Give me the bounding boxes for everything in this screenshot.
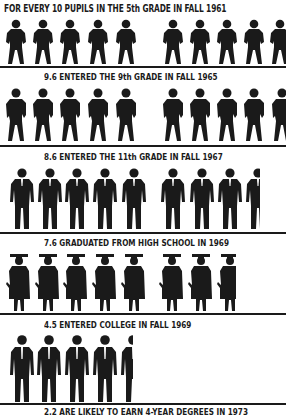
graduate-icon: [187, 252, 215, 312]
child-icon: [188, 19, 212, 65]
college-man-icon: [92, 335, 118, 403]
child-icon: [58, 19, 82, 65]
child-icon: [31, 19, 55, 65]
young-man-icon-partial: [245, 168, 260, 230]
graduate-icon: [62, 252, 90, 312]
graduate-icon: [158, 252, 186, 312]
caption-row-3: 7.6 GRADUATED FROM HIGH SCHOOL IN 1969: [44, 237, 229, 248]
divider: [0, 66, 286, 68]
teen-icon: [114, 88, 138, 142]
pictogram-row-5th-grade: [0, 19, 286, 65]
college-man-icon-partial: [120, 335, 133, 403]
college-man-icon: [64, 335, 90, 403]
young-man-icon: [217, 168, 243, 230]
young-man-icon: [64, 168, 90, 230]
divider: [0, 232, 286, 234]
teen-icon: [161, 88, 185, 142]
graduate-icon: [91, 252, 119, 312]
teen-icon: [242, 88, 266, 142]
pictogram-row-college: [0, 335, 286, 403]
caption-row-2: 8.6 ENTERED THE 11th GRADE IN FALL 1967: [44, 151, 223, 162]
teen-icon: [31, 88, 55, 142]
graduate-icon-partial: [216, 252, 236, 312]
pictogram-row-graduated: [0, 252, 286, 312]
teen-icon: [4, 88, 28, 142]
divider: [0, 313, 286, 315]
teen-icon: [58, 88, 82, 142]
young-man-icon: [189, 168, 215, 230]
caption-row-5: 2.2 ARE LIKELY TO EARN 4-YEAR DEGREES IN…: [44, 406, 248, 417]
child-icon-partial: [268, 19, 286, 65]
child-icon: [86, 19, 110, 65]
young-man-icon: [9, 168, 35, 230]
child-icon: [215, 19, 239, 65]
pictogram-row-9th-grade: [0, 88, 286, 142]
child-icon: [242, 19, 266, 65]
teen-icon-partial: [270, 88, 286, 142]
child-icon: [4, 19, 28, 65]
young-man-icon: [37, 168, 63, 230]
pictogram-row-11th-grade: [0, 168, 286, 230]
young-man-icon: [92, 168, 118, 230]
chart-title: FOR EVERY 10 PUPILS IN THE 5th GRADE IN …: [4, 3, 226, 14]
child-icon: [114, 19, 138, 65]
caption-row-4: 4.5 ENTERED COLLEGE IN FALL 1969: [44, 319, 191, 330]
teen-icon: [215, 88, 239, 142]
divider: [0, 403, 286, 405]
teen-icon: [86, 88, 110, 142]
divider: [0, 145, 286, 147]
young-man-icon: [121, 168, 147, 230]
college-man-icon: [36, 335, 62, 403]
teen-icon: [188, 88, 212, 142]
graduate-icon: [120, 252, 148, 312]
young-man-icon: [160, 168, 186, 230]
caption-row-1: 9.6 ENTERED THE 9th GRADE IN FALL 1965: [44, 71, 218, 82]
child-icon: [161, 19, 185, 65]
college-man-icon: [9, 335, 35, 403]
graduate-icon: [34, 252, 62, 312]
graduate-icon: [5, 252, 33, 312]
